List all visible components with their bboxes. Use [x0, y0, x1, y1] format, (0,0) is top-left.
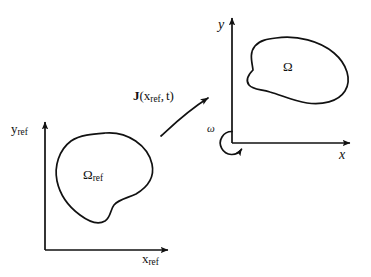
current-y-axis-label: y — [218, 18, 224, 32]
reference-axes — [45, 122, 168, 250]
reference-x-axis-label: xref — [142, 252, 159, 267]
figure-canvas: yref xref Ωref y x Ω ω J(xref,t) — [0, 0, 371, 277]
angular-velocity-label: ω — [207, 123, 215, 134]
mapping-operator-label: J(xref,t) — [133, 89, 174, 104]
current-domain-outline — [247, 37, 348, 103]
reference-domain-outline — [56, 133, 152, 223]
current-domain-label: Ω — [283, 60, 293, 73]
current-x-axis-label: x — [339, 148, 345, 162]
figure-vector-graphics — [0, 0, 371, 277]
mapping-close-paren: ) — [170, 88, 174, 103]
reference-domain-label: Ωref — [83, 168, 103, 183]
mapping-argument-subscript: ref — [150, 94, 160, 104]
reference-y-axis-label: yref — [11, 122, 28, 137]
